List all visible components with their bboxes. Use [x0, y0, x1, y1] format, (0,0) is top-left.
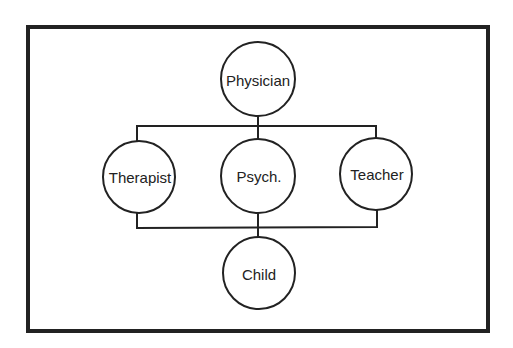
node-therapist: Therapist — [103, 141, 175, 213]
child-label: Child — [242, 266, 276, 283]
teacher-label: Teacher — [350, 166, 403, 183]
bottom-connector — [137, 210, 377, 237]
node-child: Child — [223, 237, 295, 309]
therapist-label: Therapist — [109, 169, 172, 186]
physician-label: Physician — [226, 72, 290, 89]
node-physician: Physician — [221, 42, 295, 116]
team-diagram: Physician Therapist Psych. Teacher Child — [0, 0, 513, 348]
top-connector — [137, 116, 376, 141]
node-teacher: Teacher — [340, 138, 412, 210]
node-psych: Psych. — [221, 139, 295, 213]
psych-label: Psych. — [236, 168, 281, 185]
